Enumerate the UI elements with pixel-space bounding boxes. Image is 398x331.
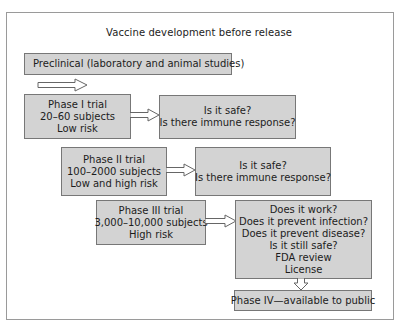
phase-2-question: Is it safe? — [239, 160, 287, 172]
phase-3-question: Does it prevent disease? — [242, 228, 365, 240]
preclinical-label: Preclinical (laboratory and animal studi… — [33, 58, 244, 70]
phase-2-title: Phase II trial — [83, 154, 145, 166]
right-arrow-icon — [130, 108, 160, 122]
phase-4-box: Phase IV—available to public — [234, 290, 372, 311]
preclinical-box: Preclinical (laboratory and animal studi… — [24, 53, 232, 75]
phase-4-label: Phase IV—available to public — [231, 295, 375, 307]
phase-1-subjects: 20–60 subjects — [40, 111, 115, 123]
phase-3-question: Does it work? — [270, 204, 338, 216]
phase-1-box: Phase I trial 20–60 subjects Low risk — [24, 94, 131, 139]
phase-3-question: Does it prevent infection? — [239, 216, 368, 228]
diagram-title: Vaccine development before release — [0, 27, 398, 38]
phase-3-risk: High risk — [129, 229, 173, 241]
right-arrow-icon — [205, 214, 237, 228]
phase-1-questions-box: Is it safe? Is there immune response? — [159, 95, 296, 139]
phase-3-box: Phase III trial 3,000–10,000 subjects Hi… — [96, 200, 206, 245]
phase-1-risk: Low risk — [57, 123, 98, 135]
phase-3-questions-box: Does it work? Does it prevent infection?… — [235, 200, 372, 279]
right-arrow-icon — [37, 78, 89, 92]
right-arrow-icon — [166, 163, 196, 177]
phase-2-box: Phase II trial 100–2000 subjects Low and… — [61, 147, 167, 196]
phase-3-subjects: 3,000–10,000 subjects — [94, 217, 207, 229]
phase-2-question: Is there immune response? — [195, 172, 331, 184]
phase-3-license: License — [285, 264, 323, 276]
phase-1-title: Phase I trial — [48, 99, 107, 111]
phase-1-question: Is it safe? — [204, 105, 252, 117]
phase-2-risk: Low and high risk — [70, 178, 158, 190]
phase-3-title: Phase III trial — [119, 205, 184, 217]
phase-2-questions-box: Is it safe? Is there immune response? — [195, 147, 331, 196]
phase-2-subjects: 100–2000 subjects — [67, 166, 161, 178]
phase-3-question: Is it still safe? — [269, 240, 337, 252]
phase-1-question: Is there immune response? — [160, 117, 296, 129]
phase-3-review: FDA review — [275, 252, 331, 264]
